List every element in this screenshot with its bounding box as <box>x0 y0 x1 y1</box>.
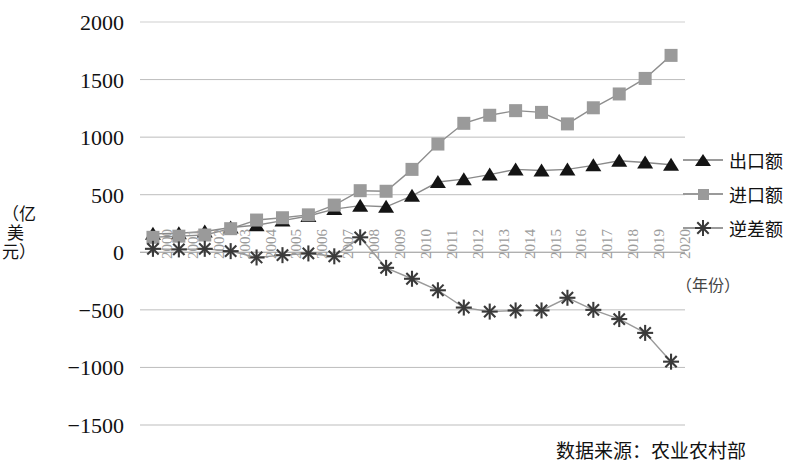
data-point-marker <box>585 302 601 318</box>
data-point-marker <box>613 87 626 100</box>
y-tick-label: −1500 <box>68 413 124 438</box>
x-tick-label-2012: 2012 <box>470 229 487 259</box>
y-tick-label: 1000 <box>80 125 124 150</box>
data-point-marker <box>406 163 419 176</box>
data-point-marker <box>404 189 420 202</box>
data-point-marker <box>509 104 522 117</box>
x-tick-label-2014: 2014 <box>522 229 539 259</box>
legend-item-deficit[interactable]: 逆差额 <box>683 211 785 245</box>
data-point-marker <box>276 211 289 224</box>
data-point-marker <box>587 101 600 114</box>
x-tick-label-2011: 2011 <box>444 230 461 259</box>
legend-swatch-triangle-icon <box>683 150 723 170</box>
chart-legend: 出口额 进口额 逆差额 <box>683 143 785 245</box>
data-point-marker <box>611 154 627 167</box>
x-tick-label-2019: 2019 <box>651 229 668 259</box>
data-point-marker <box>663 354 679 370</box>
series-line <box>153 55 671 237</box>
legend-item-imports[interactable]: 进口额 <box>683 177 785 211</box>
x-tick-label-2017: 2017 <box>599 229 616 259</box>
data-point-marker <box>534 302 550 318</box>
data-point-marker <box>404 271 420 287</box>
x-axis-title: （年份） <box>676 272 740 296</box>
x-tick-label-2005: 2005 <box>288 229 305 259</box>
data-point-marker <box>637 325 653 341</box>
legend-label-imports: 进口额 <box>729 181 783 207</box>
data-point-marker <box>302 208 315 221</box>
x-tick-label-2008: 2008 <box>366 229 383 259</box>
data-point-marker <box>508 162 524 175</box>
data-point-marker <box>457 117 470 130</box>
x-tick-label-2009: 2009 <box>392 229 409 259</box>
x-tick-label-2010: 2010 <box>418 229 435 259</box>
data-point-marker <box>611 311 627 327</box>
x-tick-label-2018: 2018 <box>625 229 642 259</box>
data-point-marker <box>328 199 341 212</box>
data-point-marker <box>535 106 548 119</box>
x-tick-label-2016: 2016 <box>573 229 590 259</box>
x-tick-label-2004: 2004 <box>263 229 280 259</box>
data-point-marker <box>456 300 472 316</box>
data-point-marker <box>380 185 393 198</box>
series-进口额 <box>146 49 677 244</box>
legend-label-exports: 出口额 <box>729 147 783 173</box>
x-tick-label-2002: 2002 <box>211 229 228 259</box>
data-point-marker <box>508 302 524 318</box>
data-point-marker <box>639 72 652 85</box>
legend-swatch-square-icon <box>683 184 723 204</box>
x-tick-label-2003: 2003 <box>237 229 254 259</box>
y-axis-title: （亿美元） <box>2 205 28 262</box>
x-tick-label-2013: 2013 <box>496 229 513 259</box>
x-tick-label-2015: 2015 <box>548 229 565 259</box>
x-tick-label-2020: 2020 <box>677 229 694 259</box>
y-tick-label: 1500 <box>80 68 124 93</box>
data-point-marker <box>430 282 446 298</box>
x-tick-label-2006: 2006 <box>314 229 331 259</box>
data-point-marker <box>559 290 575 306</box>
x-tick-label-2000: 2000 <box>159 229 176 259</box>
x-tick-label-2007: 2007 <box>340 229 357 259</box>
legend-label-deficit: 逆差额 <box>729 215 783 241</box>
data-point-marker <box>250 214 263 227</box>
legend-item-exports[interactable]: 出口额 <box>683 143 785 177</box>
y-tick-label: −500 <box>79 298 124 323</box>
y-tick-label: −1000 <box>68 355 124 380</box>
data-point-marker <box>352 199 368 212</box>
x-tick-label-2001: 2001 <box>185 229 202 259</box>
data-point-marker <box>378 260 394 276</box>
data-point-marker <box>354 184 367 197</box>
data-point-marker <box>482 304 498 320</box>
y-tick-label: 2000 <box>80 10 124 35</box>
data-point-marker <box>431 138 444 151</box>
y-tick-label: 0 <box>113 240 124 265</box>
data-point-marker <box>483 109 496 122</box>
y-tick-label: 500 <box>91 183 124 208</box>
source-note: 数据来源：农业农村部 <box>556 436 746 463</box>
chart-figure: （亿美元） 2000150010005000−500−1000−1500 （年份… <box>0 0 785 469</box>
data-point-marker <box>665 49 678 62</box>
data-point-marker <box>561 117 574 130</box>
gridlines: 2000150010005000−500−1000−1500 <box>68 10 685 438</box>
